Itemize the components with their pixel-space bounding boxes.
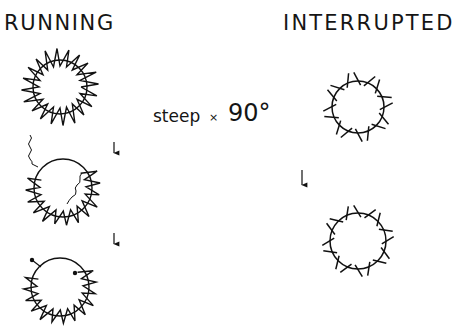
running-ring-1 bbox=[22, 49, 99, 126]
interrupted-ring-1 bbox=[323, 72, 392, 141]
tick-mark bbox=[324, 116, 339, 117]
tick-mark bbox=[354, 205, 361, 217]
dot-inside bbox=[73, 271, 77, 275]
tick-mark bbox=[377, 96, 392, 97]
fiber-outside bbox=[29, 135, 39, 167]
fiber-inside bbox=[67, 173, 82, 204]
tick-mark bbox=[355, 129, 362, 142]
tick-mark bbox=[354, 72, 361, 85]
running-ring-3 bbox=[24, 258, 96, 323]
ring-circle bbox=[33, 60, 87, 114]
tick-marks bbox=[322, 205, 393, 276]
tick-mark bbox=[323, 251, 337, 253]
interrupted-ring-2 bbox=[322, 205, 393, 276]
tick-mark bbox=[355, 265, 362, 277]
tick-mark bbox=[323, 104, 336, 111]
ring-circle bbox=[34, 159, 92, 217]
tick-mark bbox=[379, 229, 393, 231]
running-ring-2 bbox=[26, 135, 100, 225]
tick-mark bbox=[322, 238, 334, 245]
tick-mark bbox=[367, 126, 368, 141]
tick-mark bbox=[368, 262, 370, 276]
tick-mark bbox=[347, 73, 348, 88]
dot-outside bbox=[30, 258, 34, 262]
tick-marks bbox=[323, 72, 392, 141]
tick-mark bbox=[382, 237, 394, 244]
tick-mark bbox=[380, 103, 393, 110]
tick-mark bbox=[346, 206, 348, 220]
